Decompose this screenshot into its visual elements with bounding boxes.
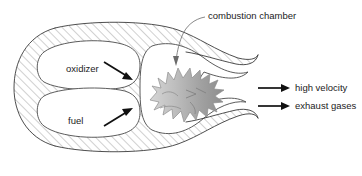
high-velocity-label: high velocity — [295, 82, 348, 93]
oxidizer-label: oxidizer — [66, 63, 99, 74]
rocket-engine-diagram: combustion chamber oxidizer fuel high ve… — [0, 0, 362, 176]
high-velocity-arrow — [258, 84, 290, 92]
exhaust-gases-arrow — [258, 102, 290, 110]
combustion-chamber-label: combustion chamber — [208, 10, 296, 21]
exhaust-gases-label: exhaust gases — [295, 100, 357, 111]
fuel-label: fuel — [68, 115, 83, 126]
arrow-right-icon — [281, 84, 290, 92]
diagram-canvas: combustion chamber oxidizer fuel high ve… — [0, 0, 362, 176]
arrow-right-icon — [281, 102, 290, 110]
